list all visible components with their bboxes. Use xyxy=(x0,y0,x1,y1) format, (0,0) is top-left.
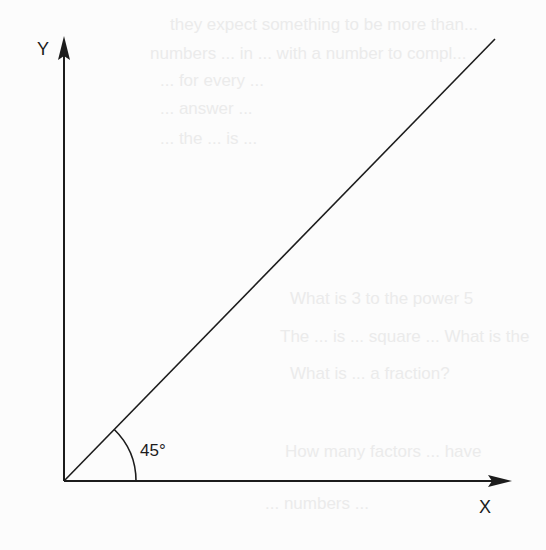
angle-label: 45° xyxy=(140,441,166,460)
angle-ray-line xyxy=(64,39,495,481)
angle-arc xyxy=(114,430,136,482)
angle-diagram: Y X 45° xyxy=(0,0,546,550)
y-axis-label: Y xyxy=(37,39,49,59)
x-axis-label: X xyxy=(479,497,491,517)
